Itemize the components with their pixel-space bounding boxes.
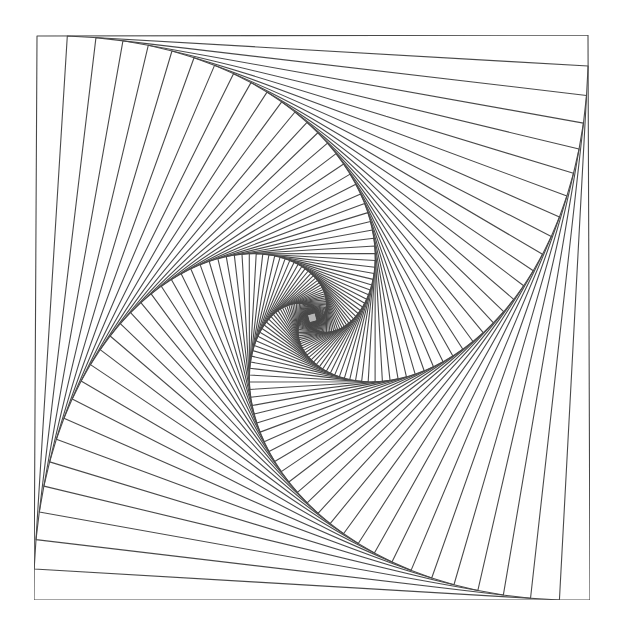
whirl-drawing <box>0 0 624 632</box>
